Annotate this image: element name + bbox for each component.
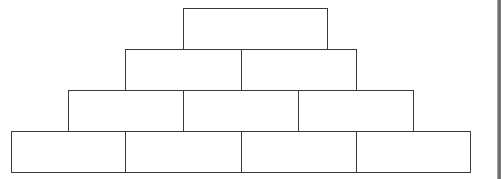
pyramid-brick-row4-2[interactable] <box>125 131 242 173</box>
number-pyramid <box>0 0 503 179</box>
pyramid-brick-row4-4[interactable] <box>356 131 471 173</box>
pyramid-brick-row3-3[interactable] <box>298 90 414 132</box>
pyramid-brick-row4-3[interactable] <box>241 131 357 173</box>
pyramid-brick-row4-1[interactable] <box>11 131 126 173</box>
pyramid-brick-row3-2[interactable] <box>183 90 299 132</box>
pyramid-brick-row1-1[interactable] <box>183 8 328 50</box>
page-edge-divider <box>497 0 501 179</box>
pyramid-brick-row2-1[interactable] <box>125 49 242 91</box>
pyramid-brick-row3-1[interactable] <box>68 90 184 132</box>
pyramid-brick-row2-2[interactable] <box>241 49 357 91</box>
